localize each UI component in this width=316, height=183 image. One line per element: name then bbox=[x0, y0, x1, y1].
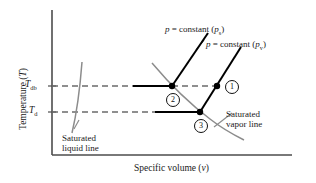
y-axis-label-close: ) bbox=[18, 68, 28, 71]
label-pv-eq: = constant ( bbox=[211, 39, 256, 49]
label-saturated-liquid-line2: liquid line bbox=[62, 143, 132, 153]
x-axis-label-close: ) bbox=[206, 163, 209, 173]
y-axis-label: Temperature (T) bbox=[18, 68, 29, 130]
tick-label-t-d: Td bbox=[29, 105, 38, 117]
x-axis-label-text: Specific volume ( bbox=[134, 163, 202, 173]
state-point-label-2: 2 bbox=[166, 93, 180, 107]
label-ps-close: ) bbox=[221, 24, 224, 34]
constant-pressure-line-pv bbox=[200, 47, 241, 112]
leader-line-ps bbox=[196, 40, 204, 50]
label-saturated-vapor-line1: Saturated bbox=[226, 109, 290, 119]
tick-label-t-db-sub: db bbox=[30, 84, 36, 91]
label-saturated-vapor-line2: vapor line bbox=[226, 119, 290, 129]
label-saturated-liquid-line1: Saturated bbox=[62, 133, 132, 143]
saturated-liquid-curve bbox=[72, 62, 82, 133]
label-saturated-liquid-line: Saturated liquid line bbox=[62, 133, 132, 153]
state-point-dot-3 bbox=[197, 109, 203, 115]
x-axis-label: Specific volume (v) bbox=[134, 163, 209, 174]
state-point-dot-1 bbox=[214, 83, 220, 89]
tick-label-t-d-sub: d bbox=[34, 110, 37, 117]
y-axis-label-var: T bbox=[18, 71, 28, 76]
label-ps-eq: = constant ( bbox=[170, 24, 215, 34]
state-point-dot-2 bbox=[169, 83, 175, 89]
diagram-canvas bbox=[0, 0, 316, 183]
tick-label-t-db: Tdb bbox=[25, 79, 37, 91]
state-point-label-1: 1 bbox=[225, 80, 239, 94]
state-point-label-3: 3 bbox=[194, 119, 208, 133]
label-constant-pressure-pv: p = constant (pv) bbox=[206, 39, 266, 52]
label-saturated-vapor-line: Saturated vapor line bbox=[226, 109, 290, 129]
label-pv-close: ) bbox=[263, 39, 266, 49]
thermodynamic-tv-diagram: Temperature (T) Specific volume (v) Tdb … bbox=[0, 0, 316, 183]
label-constant-pressure-ps: p = constant (ps) bbox=[165, 24, 224, 37]
